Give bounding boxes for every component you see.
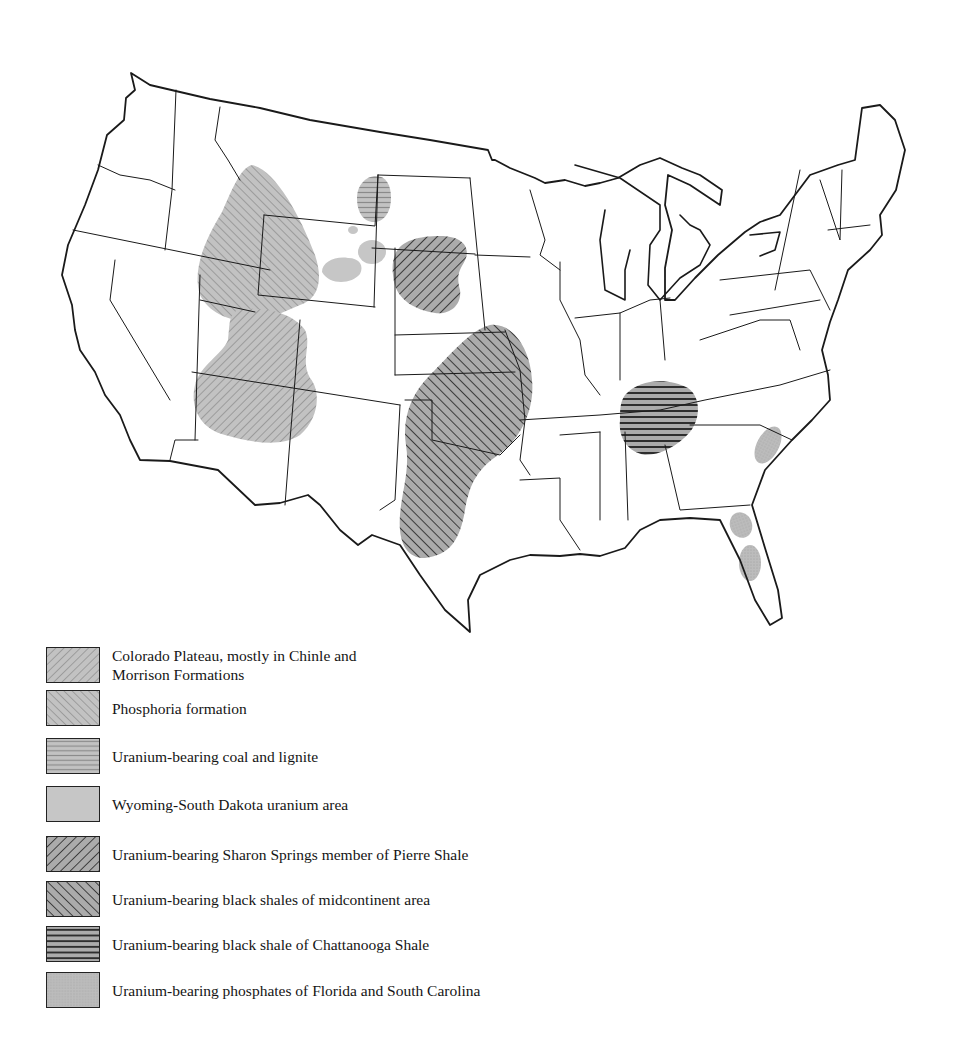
legend-label: Phosphoria formation bbox=[112, 699, 247, 718]
pattern-swatch-diagonal-down-bold bbox=[46, 881, 100, 917]
area-coal-lignite bbox=[357, 176, 391, 222]
legend-item-fl-sc-phosphates: Uranium-bearing phosphates of Florida an… bbox=[46, 972, 480, 1008]
pattern-swatch-diagonal-up-fine bbox=[46, 647, 100, 683]
area-phosphoria bbox=[198, 165, 319, 321]
pattern-swatch-horizontal-fine bbox=[46, 738, 100, 774]
area-sharon-springs bbox=[393, 236, 467, 313]
area-midcontinent bbox=[400, 325, 533, 558]
legend-item-midcontinent: Uranium-bearing black shales of midconti… bbox=[46, 881, 430, 917]
legend-item-wyoming-sd: Wyoming-South Dakota uranium area bbox=[46, 786, 348, 822]
legend-label: Uranium-bearing coal and lignite bbox=[112, 747, 318, 766]
legend-label: Colorado Plateau, mostly in Chinle and M… bbox=[112, 646, 357, 684]
legend-item-sharon-springs: Uranium-bearing Sharon Springs member of… bbox=[46, 836, 468, 872]
legend-label: Wyoming-South Dakota uranium area bbox=[112, 795, 348, 814]
area-fl-sc-phosphates bbox=[726, 422, 787, 581]
pattern-swatch-diagonal-down-fine bbox=[46, 690, 100, 726]
area-colorado-plateau bbox=[194, 309, 317, 443]
pattern-swatch-diagonal-up-bold bbox=[46, 836, 100, 872]
us-uranium-map bbox=[0, 0, 971, 640]
legend-item-colorado-plateau: Colorado Plateau, mostly in Chinle and M… bbox=[46, 646, 357, 684]
legend-label: Uranium-bearing phosphates of Florida an… bbox=[112, 981, 480, 1000]
legend-item-phosphoria: Phosphoria formation bbox=[46, 690, 247, 726]
area-chattanooga bbox=[620, 381, 698, 455]
legend-label: Uranium-bearing black shales of midconti… bbox=[112, 890, 430, 909]
legend-item-chattanooga: Uranium-bearing black shale of Chattanoo… bbox=[46, 926, 429, 962]
legend-label: Uranium-bearing Sharon Springs member of… bbox=[112, 845, 468, 864]
pattern-swatch-solid bbox=[46, 786, 100, 822]
legend-item-coal-lignite: Uranium-bearing coal and lignite bbox=[46, 738, 318, 774]
pattern-swatch-stipple bbox=[46, 972, 100, 1008]
pattern-swatch-horizontal-bold bbox=[46, 926, 100, 962]
great-lakes bbox=[575, 165, 780, 300]
legend-label: Uranium-bearing black shale of Chattanoo… bbox=[112, 935, 429, 954]
